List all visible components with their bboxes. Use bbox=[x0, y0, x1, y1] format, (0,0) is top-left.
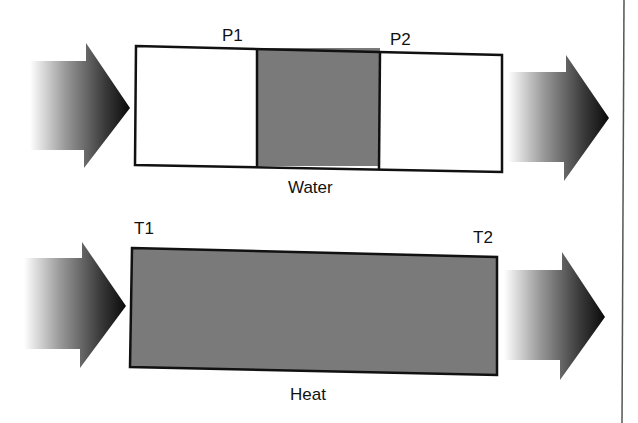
water-inflow-arrow-icon bbox=[30, 43, 130, 168]
water-section-middle bbox=[257, 48, 380, 166]
p1-label: P1 bbox=[222, 26, 243, 45]
page-edge-divider bbox=[622, 0, 624, 423]
p2-label: P2 bbox=[390, 30, 411, 49]
t1-label: T1 bbox=[134, 219, 154, 238]
water-label: Water bbox=[288, 178, 333, 197]
water-section-left bbox=[136, 46, 257, 165]
water-section-right bbox=[380, 50, 501, 171]
heat-outflow-arrow-icon bbox=[504, 252, 605, 380]
heat-label: Heat bbox=[290, 385, 326, 404]
heat-conductor bbox=[130, 248, 497, 375]
heat-inflow-arrow-icon bbox=[24, 242, 126, 368]
flow-analogy-diagram: P1 P2 Water T1 T2 Heat bbox=[0, 0, 638, 423]
water-outflow-arrow-icon bbox=[508, 55, 609, 181]
t2-label: T2 bbox=[473, 228, 493, 247]
water-pipe bbox=[135, 46, 502, 172]
